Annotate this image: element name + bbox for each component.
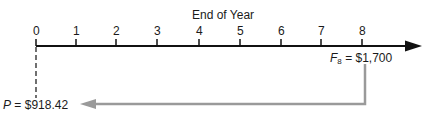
axis-arrowhead-icon <box>405 41 422 52</box>
present-equals: = <box>11 98 25 112</box>
transfer-arrowhead-icon <box>80 99 96 109</box>
future-amount: $1,700 <box>355 51 392 65</box>
present-amount: $918.42 <box>25 98 68 112</box>
tick-label-7: 7 <box>318 25 325 37</box>
tick-label-6: 6 <box>278 25 285 37</box>
future-value-label: F8 = $1,700 <box>330 52 392 68</box>
present-value-label: P = $918.42 <box>3 99 68 111</box>
tick-label-4: 4 <box>196 25 203 37</box>
axis-title: End of Year <box>192 9 254 21</box>
discount-transfer-line <box>92 64 365 104</box>
future-equals: = <box>342 51 356 65</box>
tick-label-8: 8 <box>359 25 366 37</box>
axis-ticks <box>36 39 362 46</box>
tick-label-2: 2 <box>113 25 120 37</box>
tick-label-0: 0 <box>33 25 40 37</box>
present-symbol: P <box>3 98 11 112</box>
tick-label-3: 3 <box>154 25 161 37</box>
tick-label-1: 1 <box>73 25 80 37</box>
tick-label-5: 5 <box>237 25 244 37</box>
